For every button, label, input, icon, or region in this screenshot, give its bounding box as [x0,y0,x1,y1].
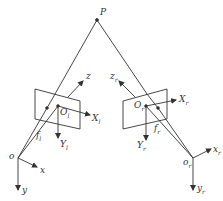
label-left-X: Xl [92,114,100,125]
right-focal-line-2 [158,108,193,158]
label-left-x: x [40,166,45,175]
label-p: P [100,8,106,17]
label-right-x: xr [213,145,221,156]
label-right-Y: Yr [137,141,146,152]
right-cam-x-axis [193,149,211,158]
label-left-f: fl [36,131,41,142]
label-right-y: yr [197,184,205,195]
ray-right [97,20,147,94]
label-left-Y: Yl [60,140,68,151]
label-right-o: or [183,158,191,169]
ray-left [55,20,97,94]
label-right-z: zr [110,72,118,83]
stereo-camera-diagram [0,0,223,201]
label-right-f: fr [154,124,160,135]
left-focal-line-2 [18,108,47,158]
right-z-axis [119,81,135,97]
label-left-y: y [22,186,27,195]
left-image-plane [35,89,80,129]
label-left-O: Ol [60,108,69,119]
left-cam-x-axis [18,158,37,167]
label-left-z: z [86,72,91,81]
label-right-X: Xr [179,95,188,106]
right-image-plane [123,89,167,129]
label-right-O: Or [134,101,144,112]
left-z-axis [68,81,83,97]
label-left-o: o [9,152,14,161]
